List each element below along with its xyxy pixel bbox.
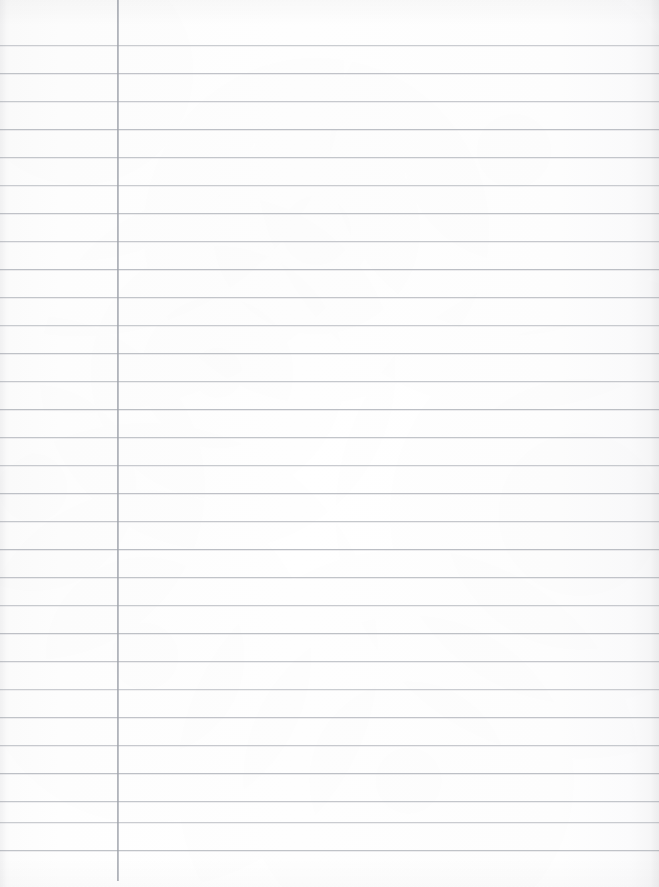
header-area[interactable]: [0, 0, 659, 45]
notebook-page: [0, 0, 659, 887]
margin-column[interactable]: [0, 45, 117, 850]
writing-area[interactable]: [119, 45, 659, 850]
